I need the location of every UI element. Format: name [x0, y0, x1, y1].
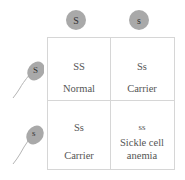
phenotype: Sickle cell anemia: [111, 136, 173, 162]
genotype: Ss: [48, 121, 110, 134]
cell-Ss-top: Ss Carrier: [111, 38, 173, 100]
phenotype: Carrier: [111, 82, 173, 95]
egg-S: S: [66, 10, 86, 30]
punnett-square: SS Normal Ss Carrier Ss Carrier ss Sickl…: [47, 37, 175, 170]
sperm-icon: [8, 124, 44, 166]
sperm-icon: [8, 60, 44, 100]
egg-allele-label: s: [137, 15, 141, 26]
sperm-S: S: [8, 60, 44, 100]
genotype: ss: [111, 121, 173, 134]
phenotype: Normal: [48, 82, 110, 95]
genotype: SS: [48, 60, 110, 73]
sperm-s: s: [8, 124, 44, 166]
egg-s: s: [129, 10, 149, 30]
sperm-allele-label: s: [32, 128, 36, 138]
egg-allele-label: S: [73, 15, 79, 26]
genotype: Ss: [111, 60, 173, 73]
sperm-allele-label: S: [33, 65, 38, 75]
cell-SS: SS Normal: [48, 38, 110, 100]
cell-Ss-bottom: Ss Carrier: [48, 101, 110, 171]
phenotype: Carrier: [48, 149, 110, 162]
cell-ss: ss Sickle cell anemia: [111, 101, 173, 171]
